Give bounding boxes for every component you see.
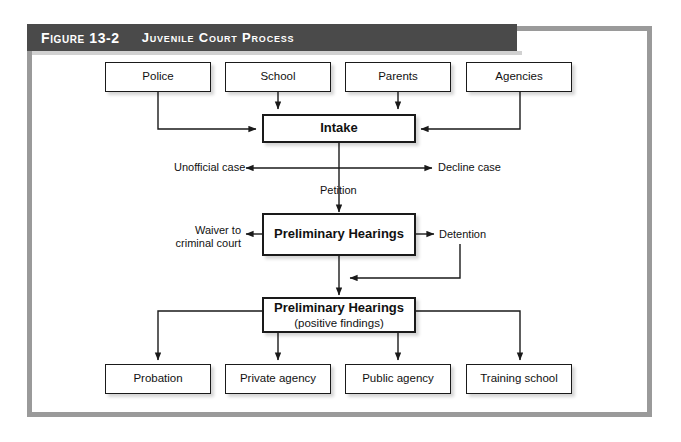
node-label: Preliminary Hearings [274,227,404,242]
waiver-line-2: criminal court [176,237,241,249]
figure-diagram: Figure 13-2 Juvenile Court Process [0,0,681,442]
label-waiver-to-criminal-court: Waiver to criminal court [155,224,241,250]
label-detention: Detention [439,228,486,241]
node-private-agency[interactable]: Private agency [225,364,331,394]
node-label: Intake [320,121,358,136]
node-police[interactable]: Police [105,62,211,92]
node-label: School [260,70,295,83]
node-label: Private agency [240,372,316,385]
node-label: Probation [133,372,182,385]
node-training-school[interactable]: Training school [466,364,572,394]
figure-title: Juvenile Court Process [120,30,295,45]
waiver-line-1: Waiver to [195,224,241,236]
node-public-agency[interactable]: Public agency [345,364,451,394]
node-parents[interactable]: Parents [345,62,451,92]
node-label: Public agency [362,372,434,385]
node-agencies[interactable]: Agencies [466,62,572,92]
label-petition: Petition [320,184,357,197]
node-label: Parents [378,70,418,83]
node-preliminary-hearings-1[interactable]: Preliminary Hearings [262,213,416,256]
figure-banner: Figure 13-2 Juvenile Court Process [27,24,517,51]
figure-number-label: Figure 13-2 [27,30,120,46]
node-label: Preliminary Hearings [274,301,404,316]
node-probation[interactable]: Probation [105,364,211,394]
node-intake[interactable]: Intake [262,114,416,143]
label-unofficial-case: Unofficial case [174,161,245,174]
node-label: Agencies [495,70,542,83]
banner-shadow [32,51,522,55]
node-sublabel: (positive findings) [294,317,383,330]
node-preliminary-hearings-2[interactable]: Preliminary Hearings (positive findings) [262,297,416,333]
node-label: Training school [480,372,558,385]
node-school[interactable]: School [225,62,331,92]
label-decline-case: Decline case [438,161,501,174]
node-label: Police [142,70,173,83]
